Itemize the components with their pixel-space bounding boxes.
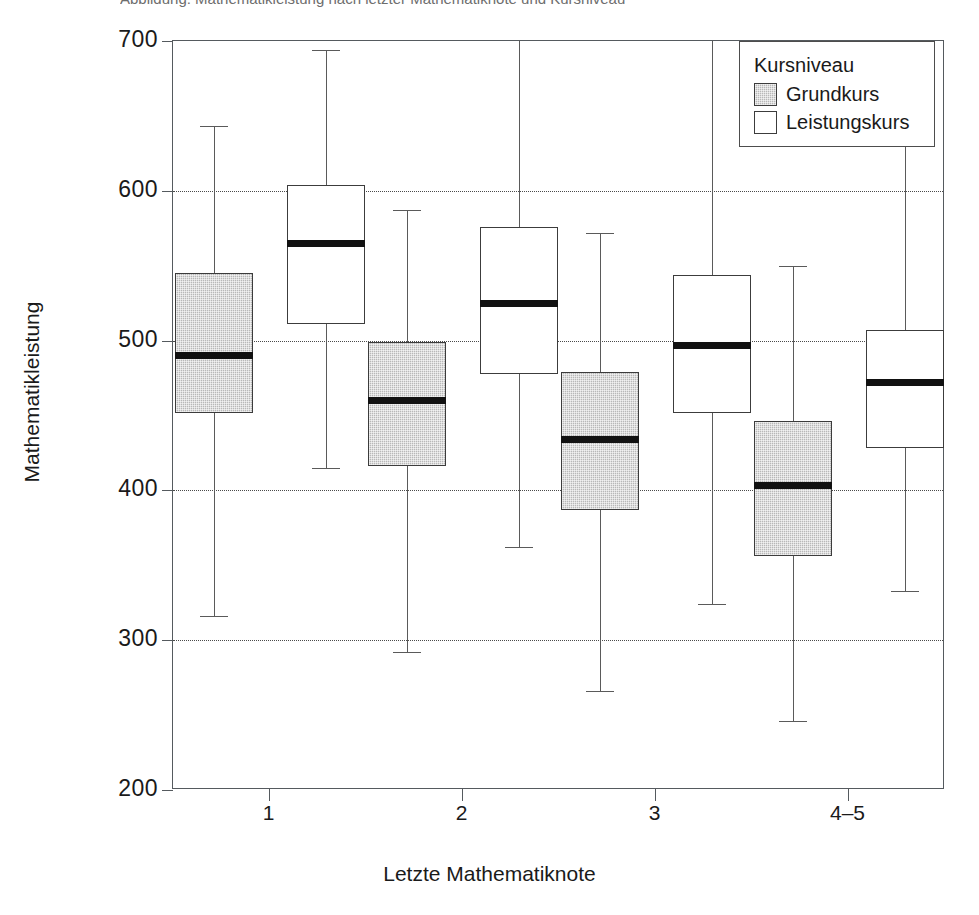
x-tick-mark-3: [655, 789, 656, 801]
legend-item-leistung[interactable]: Leistungskurs: [754, 110, 922, 134]
x-tick-label-4: 4–5: [830, 802, 865, 824]
median-line: [866, 379, 944, 386]
x-tick-label-1: 1: [263, 802, 275, 824]
clipped-caption-remnant: Abbildung: Mathematikleistung nach letzt…: [120, 0, 820, 7]
median-line: [480, 300, 558, 307]
median-line: [754, 482, 832, 489]
x-axis-title: Letzte Mathematiknote: [0, 862, 979, 886]
median-line: [175, 352, 253, 359]
y-tick-label-300: 300: [58, 627, 158, 650]
boxplot-figure: Abbildung: Mathematikleistung nach letzt…: [0, 0, 979, 915]
box-leistung-4–5: [866, 330, 944, 448]
whisker-cap-lower: [312, 468, 340, 469]
gridline-500: [173, 341, 943, 342]
x-tick-mark-4: [848, 789, 849, 801]
median-line: [673, 342, 751, 349]
legend: Kursniveau GrundkursLeistungskurs: [739, 41, 935, 147]
y-tick-label-500: 500: [58, 328, 158, 351]
x-tick-mark-2: [462, 789, 463, 801]
x-tick-mark-1: [269, 789, 270, 801]
whisker-cap-lower: [698, 604, 726, 605]
legend-entries: GrundkursLeistungskurs: [754, 82, 922, 134]
whisker-cap-lower: [393, 652, 421, 653]
y-tick-label-600: 600: [58, 178, 158, 201]
whisker-cap-upper: [200, 126, 228, 127]
y-axis-title: Mathematikleistung: [20, 242, 44, 542]
legend-swatch-grund-icon: [754, 83, 777, 106]
legend-title: Kursniveau: [754, 52, 922, 78]
legend-item-grund[interactable]: Grundkurs: [754, 82, 922, 106]
whisker-cap-lower: [505, 547, 533, 548]
plot-area: [172, 40, 944, 789]
median-line: [368, 397, 446, 404]
y-tick-label-200: 200: [58, 777, 158, 800]
y-tick-label-700: 700: [58, 28, 158, 51]
box-leistung-1: [287, 185, 365, 324]
gridline-300: [173, 640, 943, 641]
y-tick-label-400: 400: [58, 477, 158, 500]
whisker-cap-lower: [891, 591, 919, 592]
y-tick-mark-700: [162, 41, 173, 42]
box-grund-2: [368, 342, 446, 466]
whisker-cap-lower: [779, 721, 807, 722]
y-tick-mark-200: [162, 790, 173, 791]
x-tick-label-3: 3: [649, 802, 661, 824]
whisker-cap-upper: [779, 266, 807, 267]
y-tick-mark-500: [162, 341, 173, 342]
legend-label: Leistungskurs: [786, 110, 909, 134]
y-axis-tick-labels: 200300400500600700: [58, 0, 158, 915]
y-tick-mark-600: [162, 191, 173, 192]
whisker-cap-upper: [586, 233, 614, 234]
whisker-cap-upper: [312, 50, 340, 51]
median-line: [561, 436, 639, 443]
legend-label: Grundkurs: [786, 82, 879, 106]
legend-swatch-leistung-icon: [754, 111, 777, 134]
whisker-cap-lower: [200, 616, 228, 617]
y-tick-mark-400: [162, 490, 173, 491]
median-line: [287, 240, 365, 247]
x-tick-label-2: 2: [456, 802, 468, 824]
box-grund-1: [175, 273, 253, 412]
whisker-cap-lower: [586, 691, 614, 692]
y-tick-mark-300: [162, 640, 173, 641]
whisker-cap-upper: [393, 210, 421, 211]
